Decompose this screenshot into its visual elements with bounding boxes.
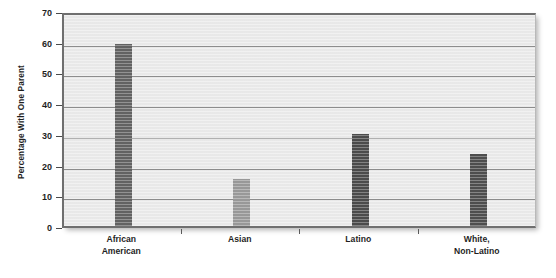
- x-tick-mark-3: [418, 229, 419, 234]
- x-axis-label-white--non-latino: White, Non-Latino: [418, 234, 537, 257]
- gridline-60: [64, 46, 535, 47]
- gridline-30: [64, 138, 535, 139]
- bar-chart-figure: Percentage With One Parent 0102030405060…: [0, 0, 556, 278]
- x-axis-label-african-american: African American: [62, 234, 181, 257]
- x-tick-mark-1: [181, 229, 182, 234]
- bar-asian: [233, 179, 250, 226]
- bar-african-american: [115, 44, 132, 226]
- x-axis-label-asian: Asian: [181, 234, 300, 246]
- gridline-10: [64, 199, 535, 200]
- plot-area: [62, 13, 536, 228]
- gridline-20: [64, 169, 535, 170]
- x-tick-mark-2: [299, 229, 300, 234]
- x-axis-label-latino: Latino: [299, 234, 418, 246]
- gridline-50: [64, 76, 535, 77]
- y-tick-mark-0: [56, 228, 62, 229]
- bar-latino: [352, 134, 369, 226]
- gridline-40: [64, 107, 535, 108]
- bar-white--non-latino: [470, 154, 487, 226]
